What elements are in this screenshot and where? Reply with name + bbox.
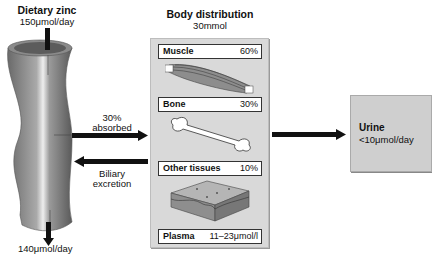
urine-title: Urine — [359, 122, 385, 133]
bone-icon — [169, 115, 255, 153]
tissue-icon — [167, 177, 253, 223]
compartment-value: 60% — [240, 45, 258, 58]
compartment-value: 11–23μmol/l — [209, 230, 258, 243]
compartment-muscle: Muscle 60% — [158, 44, 262, 59]
absorbed-label: absorbed — [82, 122, 142, 133]
intestine-icon — [8, 40, 72, 231]
distribution-total: 30mmol — [160, 20, 260, 31]
fecal-amount: 140μmol/day — [18, 243, 73, 254]
muscle-icon — [165, 61, 255, 95]
biliary-label-2: excretion — [82, 178, 142, 189]
body-distribution-box: Muscle 60% Bone 30% Other tissues 10% Pl… — [150, 38, 269, 248]
urine-arrow — [272, 129, 346, 140]
distribution-title: Body distribution — [160, 8, 260, 20]
compartment-value: 30% — [240, 98, 258, 111]
intake-arrow — [45, 28, 50, 50]
compartment-other-tissues: Other tissues 10% — [158, 161, 262, 176]
compartment-value: 10% — [240, 162, 258, 175]
biliary-arrow — [74, 156, 148, 167]
urine-box: Urine <10μmol/day — [350, 95, 432, 172]
compartment-name: Muscle — [163, 45, 194, 58]
compartment-name: Other tissues — [163, 162, 221, 175]
intake-amount: 150μmol/day — [12, 16, 82, 27]
intake-title: Dietary zinc — [12, 4, 82, 16]
compartment-plasma: Plasma 11–23μmol/l — [158, 229, 262, 244]
compartment-name: Plasma — [163, 230, 195, 243]
compartment-name: Bone — [163, 98, 186, 111]
compartment-bone: Bone 30% — [158, 97, 262, 112]
urine-amount: <10μmol/day — [359, 134, 414, 145]
